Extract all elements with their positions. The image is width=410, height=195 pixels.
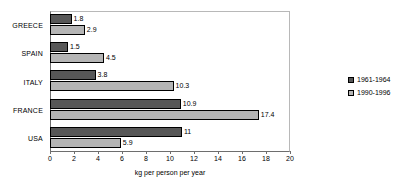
bar-value-label: 17.4	[259, 110, 275, 120]
bar	[50, 70, 96, 80]
x-tick-label: 0	[48, 154, 52, 164]
bar	[50, 25, 85, 35]
x-tick-label: 6	[120, 154, 124, 164]
bar-group: 1.54.5	[50, 39, 290, 67]
bar	[50, 53, 104, 63]
category-label: FRANCE	[13, 106, 43, 116]
category-label: GREECE	[12, 21, 43, 31]
bar-group: 115.9	[50, 124, 290, 152]
x-tick-label: 20	[286, 154, 294, 164]
category-label: ITALY	[24, 78, 43, 88]
x-tick-label: 14	[214, 154, 222, 164]
chart-legend: 1961-19641990-1996	[348, 74, 408, 100]
x-tick-label: 8	[144, 154, 148, 164]
bar	[50, 99, 181, 109]
x-tick-label: 18	[262, 154, 270, 164]
category-axis: GREECESPAINITALYFRANCEUSA	[0, 12, 46, 152]
x-tick-label: 12	[190, 154, 198, 164]
bar	[50, 81, 174, 91]
legend-swatch-icon	[348, 90, 354, 96]
bar-value-label: 1.8	[72, 14, 84, 24]
bar	[50, 127, 182, 137]
bar-chart: GREECESPAINITALYFRANCEUSA 1.82.91.54.53.…	[0, 0, 410, 195]
x-axis-title: kg per person per year	[50, 168, 290, 177]
x-axis-ticks: 02468101214161820	[50, 154, 290, 166]
bar-value-label: 1.5	[68, 42, 80, 52]
bar	[50, 42, 68, 52]
x-tick-label: 4	[96, 154, 100, 164]
bar-value-label: 3.8	[96, 70, 108, 80]
x-tick-label: 2	[72, 154, 76, 164]
bar-value-label: 10.3	[174, 81, 190, 91]
bar-value-label: 10.9	[181, 99, 197, 109]
category-label: SPAIN	[22, 49, 44, 59]
x-tick-label: 16	[238, 154, 246, 164]
plot-area: 1.82.91.54.53.810.310.917.4115.9	[50, 11, 290, 152]
bar-group: 1.82.9	[50, 11, 290, 39]
legend-item: 1961-1964	[348, 74, 408, 85]
bar-value-label: 2.9	[85, 25, 97, 35]
bar-value-label: 5.9	[121, 138, 133, 148]
legend-label: 1990-1996	[357, 88, 390, 97]
bar-value-label: 11	[182, 127, 191, 137]
bar-group: 3.810.3	[50, 67, 290, 95]
bar	[50, 14, 72, 24]
legend-label: 1961-1964	[357, 75, 390, 84]
bar-value-label: 4.5	[104, 53, 116, 63]
category-label: USA	[28, 134, 43, 144]
bar	[50, 138, 121, 148]
x-tick-label: 10	[166, 154, 174, 164]
legend-item: 1990-1996	[348, 87, 408, 98]
bar	[50, 110, 259, 120]
bar-group: 10.917.4	[50, 96, 290, 124]
legend-swatch-icon	[348, 77, 354, 83]
